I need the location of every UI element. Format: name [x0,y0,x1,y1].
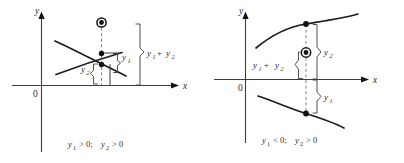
x-axis-right [214,76,369,82]
label-y2-sub-right: 2 [329,52,332,59]
point-y1-left [99,51,104,56]
x-axis-label-right: x [372,75,378,85]
y-axis-label-left: y [34,6,40,16]
point-sum-right [300,47,312,59]
y-axis-right [242,12,248,144]
figure-root: y x 0 y 1 y 2 y 1 + y 2 [0,0,404,163]
point-y2-left [99,62,104,67]
label-y1-right: y [323,92,328,102]
y-axis-label-right: y [238,6,244,16]
label-sum-y1-left: y [146,48,151,58]
caption-var1-right: y [261,135,266,145]
label-y2-sub-left: 2 [86,69,89,76]
label-sum-y2-sub-right: 2 [280,65,283,72]
point-y1-right [303,111,309,117]
label-sum-y1-right: y [252,60,257,70]
label-y1-sub-right: 1 [329,97,332,104]
panel-right-first-negative: y x 0 y 2 y 1 y 1 + y 2 [202,0,404,163]
origin-label-left: 0 [33,89,38,99]
label-sum-y1-sub-left: 1 [152,53,155,60]
origin-label-right: 0 [238,83,243,93]
brace-y2-right [313,25,321,80]
panel-left-both-positive: y x 0 y 1 y 2 y 1 + y 2 [0,0,202,163]
x-axis-left [12,82,179,88]
brace-y2-left [91,64,98,84]
point-y2-right [303,21,309,27]
caption-var2-left: y [100,139,105,149]
label-sum-y2-sub-left: 2 [171,53,174,60]
caption-var2-sub-left: 2 [106,145,109,151]
caption-left: y 1 > 0; y 2 > 0 [67,139,123,151]
curve-upper-right [256,14,358,48]
label-y1-sub-left: 1 [127,57,130,64]
label-y1-left: y [121,52,126,62]
label-sum-y2-right: y [274,60,279,70]
label-sum-operator-right: + [264,60,269,70]
caption-var1-sub-left: 1 [73,145,76,151]
caption-right: y 1 < 0; y 2 > 0 [261,135,317,147]
caption-var2-right: y [294,135,299,145]
caption-rel1-left: > 0; [79,139,93,149]
caption-var1-sub-right: 1 [267,141,270,147]
x-axis-label-left: x [182,81,188,91]
label-sum-operator-left: + [157,48,162,58]
caption-var1-left: y [67,139,72,149]
point-sum-left [96,17,107,28]
y-axis-left [38,12,44,153]
label-sum-y2-left: y [165,48,170,58]
brace-y1-right [313,80,321,113]
label-y2-left: y [80,64,85,74]
caption-rel2-left: > 0 [112,139,123,149]
brace-sum-left [136,24,144,85]
label-y2-right: y [323,47,328,57]
label-sum-y1-sub-right: 1 [258,65,261,72]
caption-var2-sub-right: 2 [300,141,303,147]
caption-rel2-right: > 0 [306,135,317,145]
caption-rel1-right: < 0; [273,135,287,145]
